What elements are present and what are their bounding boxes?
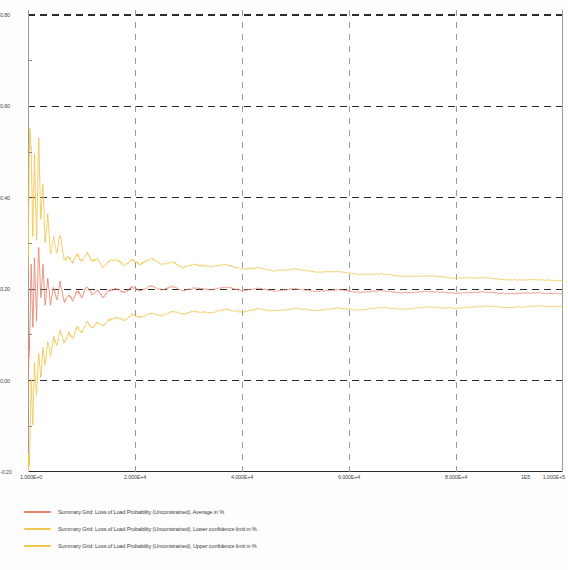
legend-item-average: Summary Grid: Loss of Load Probability (… [24,503,544,520]
legend-swatch-upper-confidence [24,545,51,547]
legend-label-average: Summary Grid: Loss of Load Probability (… [58,508,224,516]
x-tick-label: 1.000E+0 [20,474,42,481]
x-axis: 1.000E+02.000E+44.000E+46.000E+48.000E+4… [0,474,568,488]
x-tick-label: 1E5 [521,474,530,481]
legend-item-lower-confidence: Summary Grid: Loss of Load Probability (… [24,520,544,537]
y-axis: 0.800.600.400.200.00-0.20 [0,10,27,472]
legend-label-lower-confidence: Summary Grid: Loss of Load Probability (… [58,525,257,533]
legend-swatch-average [24,511,51,513]
x-tick-label: 8.000E+4 [445,474,467,481]
y-tick-label: 0.60 [0,103,26,109]
legend-item-upper-confidence: Summary Grid: Loss of Load Probability (… [24,537,544,554]
y-tick-label: 0.80 [0,12,26,18]
y-tick-label: 0.40 [0,195,26,201]
x-tick-label: 4.000E+4 [231,474,253,481]
line-chart-svg [28,10,563,472]
plot-area [28,10,563,472]
chart-legend: Summary Grid: Loss of Load Probability (… [24,503,544,554]
x-tick-label: 2.000E+4 [124,474,146,481]
x-tick-label: 6.000E+4 [338,474,360,481]
y-tick-label: 0.20 [0,286,26,292]
x-tick-label: 1.000E+5 [543,474,565,481]
y-tick-label: 0.00 [0,378,26,384]
legend-swatch-lower-confidence [24,528,51,530]
chart-page: 0.800.600.400.200.00-0.20 1.000E+02.000E… [0,0,568,570]
legend-label-upper-confidence: Summary Grid: Loss of Load Probability (… [58,542,257,550]
